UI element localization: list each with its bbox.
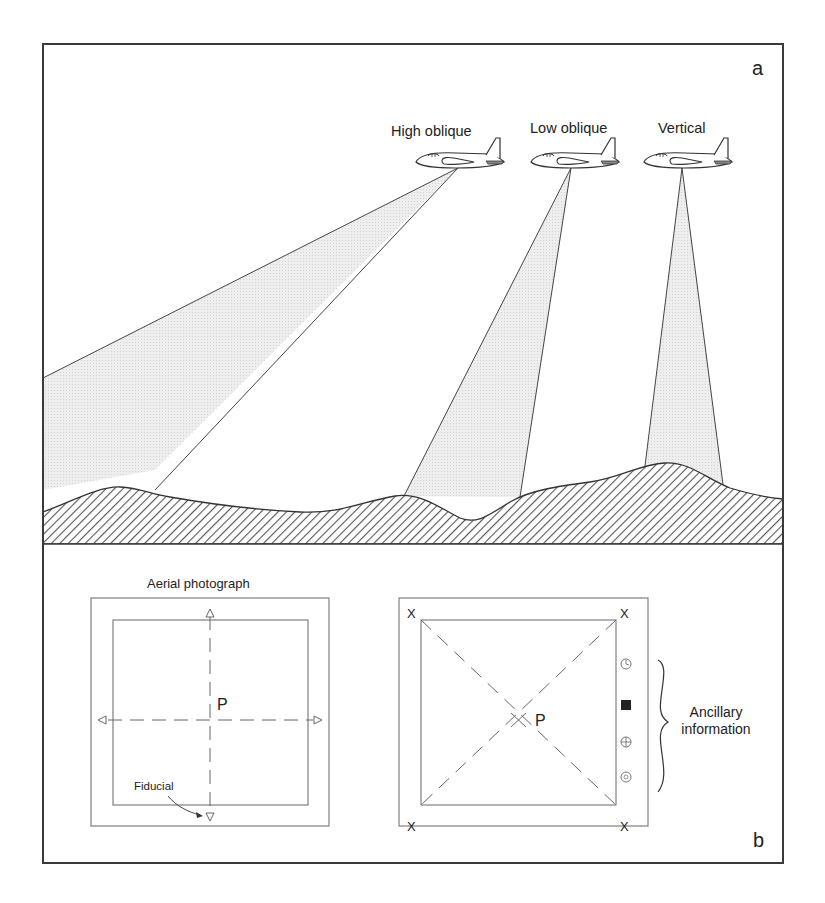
aircraft-high-oblique: High oblique [391, 123, 504, 168]
vertical-coverage [645, 168, 724, 492]
fiducial-mark-right [314, 716, 322, 724]
aircraft-label: Vertical [658, 120, 706, 136]
right-aerial-photograph: P X X X X Ancillary [399, 598, 751, 834]
black-square-icon [621, 700, 631, 710]
corner-mark: X [407, 819, 416, 834]
fiducial-mark-left [98, 716, 106, 724]
panel-a-label: a [752, 57, 764, 79]
corner-mark: X [620, 606, 629, 621]
terrain [43, 463, 783, 544]
corner-mark: X [620, 819, 629, 834]
aerial-photograph-title: Aerial photograph [147, 576, 250, 591]
corner-mark: X [407, 606, 416, 621]
aircraft-label: High oblique [391, 123, 472, 139]
curly-brace [658, 660, 668, 792]
panel-b: Aerial photograph P Fiducial P [91, 576, 764, 851]
aircraft-label: Low oblique [530, 120, 607, 136]
ancillary-label-line1: Ancillary [690, 704, 743, 720]
aircraft-vertical: Vertical [644, 120, 732, 168]
fiducial-mark-bottom [206, 813, 214, 821]
principal-point-label: P [217, 696, 228, 713]
fiducial-label: Fiducial [134, 780, 174, 792]
high-oblique-coverage [43, 168, 458, 490]
left-aerial-photograph: Aerial photograph P Fiducial [91, 576, 329, 826]
clock-icon [621, 659, 631, 669]
principal-point-label: P [535, 712, 546, 729]
ancillary-label-line2: information [681, 721, 750, 737]
aircraft-low-oblique: Low oblique [530, 120, 619, 168]
fiducial-mark-top [206, 609, 214, 617]
altimeter-icon [621, 772, 631, 782]
figure: High oblique Low oblique Vertical a Aeri… [0, 0, 825, 903]
panel-a: High oblique Low oblique Vertical a [43, 57, 783, 544]
panel-b-label: b [753, 829, 764, 851]
level-bubble-icon [621, 737, 631, 747]
